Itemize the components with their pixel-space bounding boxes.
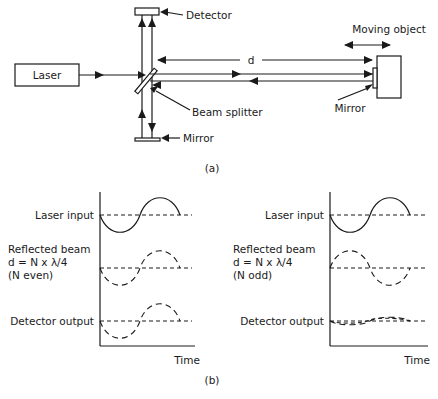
detector-output-wave	[330, 317, 410, 325]
x-axis-label: Time	[403, 354, 430, 366]
laser-box: Laser	[15, 64, 79, 86]
distance-indicator: d	[157, 54, 373, 66]
object-mirror	[373, 68, 377, 88]
arrow-right-icon	[232, 70, 241, 78]
detector-label: Detector	[186, 9, 232, 21]
arrow-icon	[365, 84, 373, 91]
detector-output-wave	[100, 304, 180, 339]
setup-diagram: Laser Detector Beam splitter	[15, 8, 426, 174]
mirror-label-object: Mirror	[335, 102, 367, 114]
row-label-reflected-line3: (N even)	[8, 269, 53, 281]
arrow-up-icon	[148, 18, 156, 27]
reflected-beam-wave	[100, 251, 180, 286]
arrow-left-icon	[344, 41, 353, 49]
caption-b: (b)	[205, 374, 220, 386]
arrow-icon	[95, 71, 104, 79]
timing-plot-right: Time Laser input Reflected beam d = N x …	[233, 192, 430, 366]
arrow-up-icon	[138, 109, 146, 118]
arrow-up-icon	[138, 18, 146, 27]
arrow-down-icon	[148, 123, 156, 132]
reference-mirror: Mirror	[135, 132, 215, 144]
moving-object: Moving object Mirror	[335, 23, 426, 114]
row-label-reflected-line2: d = N x λ/4	[8, 256, 68, 268]
arrow-right-icon	[364, 56, 373, 64]
laser-label: Laser	[33, 69, 62, 81]
arrow-left-icon	[249, 77, 258, 85]
laser-input-wave	[330, 198, 410, 233]
arrow-right-icon	[364, 70, 373, 78]
caption-a: (a)	[205, 162, 220, 174]
mirror-label-bottom: Mirror	[183, 132, 215, 144]
laser-input-wave	[100, 198, 180, 233]
beam-splitter-label: Beam splitter	[192, 106, 263, 118]
row-label-detector-output: Detector output	[10, 315, 94, 327]
row-label-reflected-line1: Reflected beam	[233, 243, 316, 255]
detector: Detector	[135, 8, 232, 21]
row-label-reflected-line2: d = N x λ/4	[233, 256, 293, 268]
x-axis-label: Time	[173, 354, 200, 366]
pointer-arrow-icon	[160, 8, 168, 16]
row-label-reflected-line3: (N odd)	[233, 269, 272, 281]
row-label-laser-input: Laser input	[265, 209, 324, 221]
row-label-reflected-line1: Reflected beam	[8, 243, 91, 255]
arrow-right-icon	[382, 41, 391, 49]
pointer-arrow-icon	[161, 134, 169, 142]
arrow-left-icon	[157, 56, 166, 64]
row-label-laser-input: Laser input	[35, 209, 94, 221]
row-label-detector-output: Detector output	[240, 315, 324, 327]
moving-object-label: Moving object	[352, 23, 426, 35]
interferometer-figure: Laser Detector Beam splitter	[0, 0, 438, 399]
timing-plot-left: Time Laser input Reflected beam d = N x …	[8, 192, 200, 366]
reflected-beam-wave	[330, 251, 410, 286]
distance-label: d	[248, 54, 255, 66]
beam-splitter: Beam splitter	[135, 68, 264, 118]
